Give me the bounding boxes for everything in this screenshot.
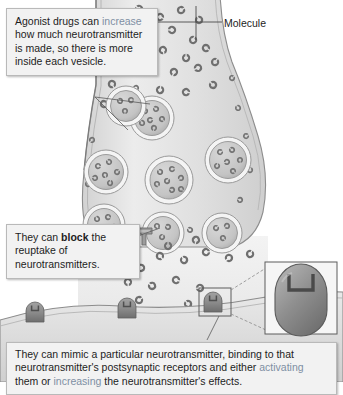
- callout-mimic-text-1: They can mimic a particular neurotransmi…: [15, 348, 294, 373]
- callout-agonist-text-1: Agonist drugs can: [15, 15, 102, 27]
- callout-block-reuptake: They can block the reuptake of neurotran…: [6, 224, 140, 279]
- callout-mimic-neurotransmitter: They can mimic a particular neurotransmi…: [6, 342, 337, 395]
- callout-mimic-highlight-1: activating: [259, 361, 303, 373]
- callout-block-bold: block: [61, 231, 88, 243]
- molecule-label-text: Molecule: [224, 17, 266, 29]
- callout-mimic-highlight-2: increasing: [54, 375, 102, 387]
- callout-agonist-drugs: Agonist drugs can increase how much neur…: [6, 8, 158, 76]
- callout-agonist-text-2: how much neurotransmitter is made, so th…: [15, 28, 142, 67]
- callout-block-text-1: They can: [15, 231, 61, 243]
- molecule-label: Molecule: [224, 17, 266, 29]
- callout-mimic-text-2: them or: [15, 375, 54, 387]
- receptor-highlighted: [204, 292, 222, 312]
- callout-mimic-text-3: the neurotransmitter's effects.: [101, 375, 242, 387]
- callout-agonist-highlight: increase: [102, 15, 142, 27]
